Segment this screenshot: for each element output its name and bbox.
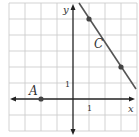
y-axis-down-arrow-icon	[71, 129, 76, 135]
line-c-point-1	[86, 16, 91, 21]
y-axis-label: y	[62, 4, 69, 15]
line-c-label: C	[94, 37, 103, 51]
x-axis-left-arrow-icon	[10, 97, 16, 102]
coordinate-plane: A C y x 1 1	[0, 0, 139, 137]
x-tick-one: 1	[87, 104, 92, 113]
line-c	[79, 3, 136, 89]
y-axis-up-arrow-icon	[71, 4, 76, 10]
x-axis-right-arrow-icon	[129, 97, 135, 102]
line-c-point-2	[118, 64, 123, 69]
y-tick-one: 1	[65, 80, 70, 89]
point-a-label: A	[28, 84, 38, 98]
point-a	[38, 96, 43, 101]
x-axis-label: x	[128, 103, 134, 114]
